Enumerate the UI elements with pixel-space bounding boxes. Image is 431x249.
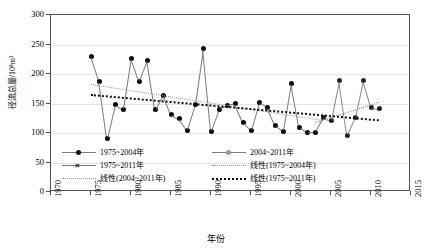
series-line-segment — [338, 80, 347, 135]
x-axis-tick-mark — [90, 191, 91, 195]
legend-row: ×1975~2011年线性(1975~2004年) — [62, 159, 362, 172]
data-point-marker — [272, 122, 279, 129]
data-point-marker — [344, 132, 351, 139]
data-point-marker — [280, 128, 287, 135]
legend-item[interactable]: 2004~2011年 — [212, 146, 362, 159]
series-line-segment — [290, 83, 299, 127]
x-axis-tick-label: 2015 — [414, 180, 423, 197]
series-line-segment — [123, 58, 132, 109]
legend-label: 线性(1975~2004年) — [250, 161, 316, 171]
data-point-marker — [312, 129, 319, 136]
x-axis-tick-mark — [130, 191, 131, 195]
x-axis-tick-label: 1980 — [134, 180, 143, 197]
data-point-marker — [288, 80, 295, 87]
y-axis-tick-label: 250 — [31, 40, 44, 49]
legend-item[interactable]: ×1975~2011年 — [62, 159, 212, 172]
data-point-marker — [144, 57, 151, 64]
x-axis-tick-label: 2010 — [374, 180, 383, 197]
x-axis-tick-mark — [290, 191, 291, 195]
data-point-marker — [296, 124, 303, 131]
data-point-marker — [200, 45, 207, 52]
legend-swatch-line-dot — [62, 148, 96, 157]
x-axis-tick-label: 1970 — [54, 180, 63, 197]
legend-swatch-dotted-mid — [62, 174, 96, 183]
legend-row: 1975~2004年2004~2011年 — [62, 146, 362, 159]
data-point-marker — [240, 119, 247, 126]
data-point-marker — [176, 115, 183, 122]
data-point-marker — [336, 77, 343, 84]
y-axis-tick-label: 100 — [31, 128, 44, 137]
y-axis-tick-label: 0 — [40, 187, 44, 196]
legend-item[interactable]: 1975~2004年 — [62, 146, 212, 159]
y-axis-tick-label: 150 — [31, 99, 44, 108]
data-point-marker — [136, 78, 143, 85]
data-point-marker — [248, 127, 255, 134]
series-line-segment — [98, 81, 107, 139]
x-axis-tick-label: 1995 — [254, 180, 263, 197]
data-point-marker — [360, 77, 367, 84]
x-axis-tick-label: 2005 — [334, 180, 343, 197]
legend-row: 线性(2004~2011年)线性(1975~2011年) — [62, 172, 362, 185]
data-point-marker — [208, 128, 215, 135]
data-point-marker — [112, 101, 119, 108]
legend-swatch-line-dot-grey — [212, 148, 246, 157]
x-axis-tick-label: 1975 — [94, 180, 103, 197]
gridline — [51, 74, 409, 75]
y-axis-tick-label: 200 — [31, 69, 44, 78]
gridline — [51, 45, 409, 46]
y-axis-tick-label: 300 — [31, 10, 44, 19]
data-point-marker — [120, 106, 127, 113]
data-point-marker — [304, 129, 311, 136]
x-axis-tick-label: 1990 — [214, 180, 223, 197]
data-point-marker — [168, 111, 175, 118]
legend-label: 1975~2011年 — [100, 161, 144, 171]
x-axis-tick-label: 2000 — [294, 180, 303, 197]
y-axis: 050100150200250300 — [0, 0, 50, 205]
series-line-segment — [355, 80, 364, 117]
x-axis-tick-mark — [210, 191, 211, 195]
x-axis-tick-mark — [330, 191, 331, 195]
legend-label: 2004~2011年 — [250, 148, 294, 158]
data-point-marker — [184, 127, 191, 134]
legend-item[interactable]: 线性(1975~2004年) — [212, 159, 362, 172]
legend-swatch-dotted-light — [212, 161, 246, 170]
x-axis-tick-mark — [250, 191, 251, 195]
data-point-marker — [88, 53, 95, 60]
runoff-chart-figure: 径流总量/10⁸m³ 050100150200250300 年份 1975~20… — [0, 0, 431, 249]
x-axis-title: 年份 — [0, 232, 431, 245]
x-axis-tick-label: 1985 — [174, 180, 183, 197]
x-axis-tick-mark — [50, 191, 51, 195]
legend-label: 1975~2004年 — [100, 148, 144, 158]
data-point-marker — [376, 105, 383, 112]
x-axis-tick-mark — [410, 191, 411, 195]
data-point-marker — [152, 106, 159, 113]
series-line-segment — [202, 49, 211, 132]
data-point-marker — [128, 55, 135, 62]
x-axis-tick-mark — [170, 191, 171, 195]
legend-swatch-line-x: × — [62, 161, 96, 170]
y-axis-tick-label: 50 — [36, 158, 45, 167]
chart-legend: 1975~2004年2004~2011年×1975~2011年线性(1975~2… — [62, 146, 362, 185]
data-point-marker — [96, 78, 103, 85]
data-point-marker — [104, 135, 111, 142]
data-point-marker — [256, 99, 263, 106]
x-axis-tick-mark — [370, 191, 371, 195]
